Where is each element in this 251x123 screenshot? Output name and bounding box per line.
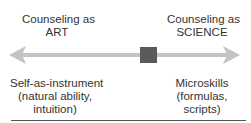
left-pole-description: Self-as-instrument (natural ability, int… [10, 77, 100, 116]
right-desc-line2: (formulas, [167, 90, 237, 103]
right-desc-line1: Microskills [167, 77, 237, 90]
left-desc-line3: intuition) [10, 103, 100, 116]
bottom-divider [11, 120, 246, 121]
right-pole-description: Microskills (formulas, scripts) [167, 77, 237, 116]
right-desc-line3: scripts) [167, 103, 237, 116]
left-desc-line2: (natural ability, [10, 90, 100, 103]
left-desc-line1: Self-as-instrument [10, 77, 100, 90]
position-marker [140, 47, 157, 63]
